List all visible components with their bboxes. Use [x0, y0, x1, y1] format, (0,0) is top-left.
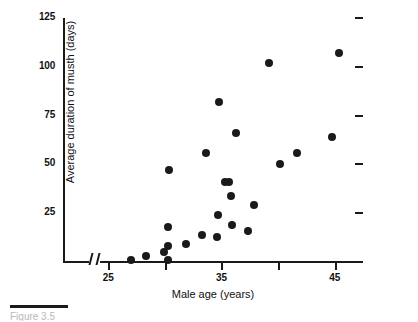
data-point	[214, 211, 222, 219]
data-point	[225, 178, 233, 186]
y-axis-tick-label: 25	[23, 206, 55, 217]
y-axis-tick-label: 50	[23, 157, 55, 168]
x-axis-tick	[165, 263, 167, 270]
plot-area: 255075100125253545	[63, 18, 363, 262]
data-point	[127, 256, 135, 264]
y-axis-tick	[355, 163, 363, 165]
figure-container: Average duration of musth (days) Male ag…	[0, 0, 418, 322]
data-point	[164, 242, 172, 250]
data-point	[293, 149, 301, 157]
data-point	[215, 98, 223, 106]
figure-caption: Figure 3.5	[10, 311, 55, 321]
data-point	[227, 192, 235, 200]
data-point	[244, 227, 252, 235]
x-axis-tick	[335, 263, 337, 270]
data-point	[142, 252, 150, 260]
caption-rule	[10, 305, 68, 308]
y-axis-tick-label: 100	[23, 60, 55, 71]
data-point	[213, 233, 221, 241]
data-point	[164, 223, 172, 231]
x-axis-tick	[221, 263, 223, 270]
x-axis-tick-label: 35	[206, 272, 236, 283]
data-point	[250, 201, 258, 209]
data-point	[265, 59, 273, 67]
data-point	[182, 240, 190, 248]
x-axis-tick-label: 25	[93, 272, 123, 283]
y-axis-tick	[355, 212, 363, 214]
x-axis-tick	[278, 263, 280, 270]
data-point	[328, 133, 336, 141]
y-axis-tick-label: 75	[23, 109, 55, 120]
data-point	[198, 231, 206, 239]
data-point	[335, 49, 343, 57]
y-axis-tick	[355, 66, 363, 68]
y-axis-tick	[355, 17, 363, 19]
y-axis-tick	[355, 115, 363, 117]
x-axis-tick-label: 45	[320, 272, 350, 283]
x-axis-label: Male age (years)	[63, 288, 363, 300]
data-point	[276, 160, 284, 168]
data-point	[232, 129, 240, 137]
data-point	[165, 166, 173, 174]
data-point	[228, 221, 236, 229]
x-axis-tick	[108, 263, 110, 270]
y-axis-tick-label: 125	[23, 11, 55, 22]
data-point	[202, 149, 210, 157]
